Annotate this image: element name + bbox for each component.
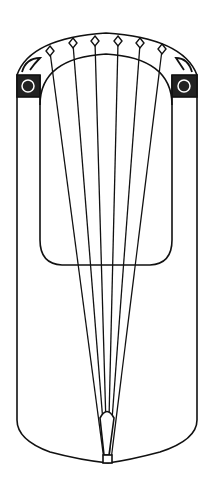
outer-body-outline [17,33,197,463]
strings [50,42,162,460]
inner-opening [40,54,172,265]
right-ornament [172,75,197,97]
end-button [103,455,112,463]
lyre-drawing [0,0,213,490]
left-ornament [17,75,40,97]
instrument-figure [0,0,213,490]
